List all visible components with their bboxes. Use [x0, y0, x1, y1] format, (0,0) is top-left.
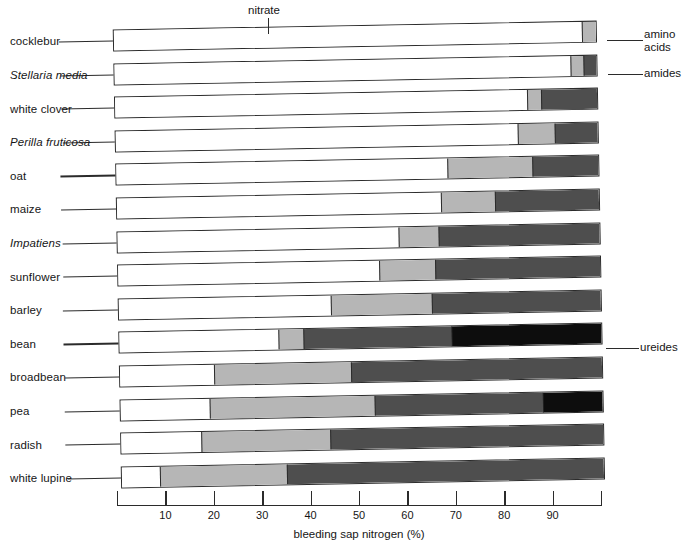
- stacked-bar-broadbean: [119, 357, 603, 388]
- callout-line-amides: [608, 74, 643, 75]
- callout-line-nitrate: [268, 18, 269, 34]
- segment-amino-acids: [278, 329, 303, 349]
- callout-line-ureides: [606, 348, 639, 349]
- axis-tick-label-40: 40: [296, 509, 326, 521]
- segment-amides: [541, 89, 597, 110]
- bar-row: [118, 323, 602, 354]
- axis-tick-label-90: 90: [538, 509, 568, 521]
- bar-row: [119, 357, 603, 388]
- bar-row: [113, 21, 597, 52]
- axis-tick-0: [117, 491, 118, 506]
- label-leader-line: [68, 477, 121, 479]
- callout-label-amino-acids: amino acids: [644, 28, 675, 54]
- stacked-bar-oat: [115, 155, 599, 186]
- axis-tick-70: [456, 491, 457, 506]
- segment-nitrate: [114, 22, 582, 51]
- row-label-perilla-fruticosa: Perilla fruticosa: [10, 136, 90, 148]
- segment-amino-acids: [570, 55, 583, 75]
- segment-amides: [435, 257, 601, 280]
- axis-tick-label-60: 60: [392, 509, 422, 521]
- figure-root: cockleburStellaria mediawhite cloverPeri…: [0, 0, 687, 559]
- axis-tick-20: [214, 491, 215, 506]
- segment-amino-acids: [517, 123, 554, 144]
- callout-label-ureides: ureides: [640, 341, 678, 354]
- row-label-pea: pea: [10, 405, 30, 417]
- row-label-sunflower: sunflower: [10, 271, 60, 283]
- segment-amino-acids: [379, 260, 435, 281]
- axis-tick-90: [553, 491, 554, 506]
- row-label-impatiens: Impatiens: [10, 237, 61, 249]
- row-label-oat: oat: [10, 170, 26, 182]
- segment-nitrate: [117, 227, 398, 252]
- segment-nitrate: [121, 398, 210, 420]
- bar-row: [116, 222, 600, 253]
- segment-amides: [303, 327, 451, 350]
- row-label-radish: radish: [10, 439, 42, 451]
- label-leader-line: [63, 276, 117, 278]
- segment-amino-acids: [398, 226, 438, 247]
- axis-tick-label-10: 10: [150, 509, 180, 521]
- stacked-bar-impatiens: [116, 222, 600, 253]
- segment-amides: [374, 392, 543, 415]
- stacked-bar-bean: [118, 323, 602, 354]
- stacked-bar-white-lupine: [121, 457, 605, 488]
- axis-tick-40: [311, 491, 312, 506]
- segment-nitrate: [117, 193, 441, 219]
- label-leader-line: [66, 444, 121, 446]
- segment-amides: [330, 425, 603, 450]
- segment-amino-acids: [447, 157, 533, 179]
- segment-ureides: [543, 391, 603, 412]
- segment-amides: [533, 156, 599, 177]
- axis-tick-10: [165, 491, 166, 506]
- segment-amino-acids: [581, 22, 596, 42]
- axis-tick-60: [407, 491, 408, 506]
- segment-nitrate: [121, 432, 202, 453]
- stacked-bar-sunflower: [117, 256, 601, 287]
- label-leader-line: [63, 309, 118, 311]
- axis-tick-100: [601, 491, 602, 506]
- row-label-broadbean: broadbean: [10, 371, 66, 383]
- axis-tick-80: [504, 491, 505, 506]
- segment-nitrate: [122, 466, 160, 487]
- segment-amides: [554, 122, 598, 143]
- label-leader-line: [60, 175, 115, 177]
- segment-nitrate: [115, 90, 527, 118]
- axis-tick-50: [359, 491, 360, 506]
- row-label-barley: barley: [10, 304, 42, 316]
- segment-amides: [583, 55, 596, 75]
- segment-nitrate: [116, 124, 518, 151]
- segment-nitrate: [118, 261, 379, 286]
- axis-tick-label-30: 30: [247, 509, 277, 521]
- stacked-bar-stellaria-media: [113, 54, 597, 85]
- segment-nitrate: [119, 295, 331, 319]
- segment-amides: [495, 190, 599, 212]
- segment-ureides: [451, 324, 602, 347]
- stacked-bar-white-clover: [114, 88, 598, 119]
- stacked-bar-barley: [118, 289, 602, 320]
- segment-amino-acids: [160, 464, 288, 486]
- bar-row: [118, 289, 602, 320]
- label-leader-line: [61, 208, 116, 210]
- segment-nitrate: [114, 56, 570, 84]
- segment-amides: [287, 458, 604, 484]
- segment-amino-acids: [213, 362, 351, 385]
- segment-amides: [438, 223, 600, 246]
- segment-amino-acids: [441, 192, 496, 213]
- bar-row: [114, 88, 598, 119]
- callout-label-amides: amides: [644, 67, 681, 80]
- bar-row: [121, 457, 605, 488]
- segment-nitrate: [116, 159, 447, 185]
- row-label-bean: bean: [10, 338, 36, 350]
- segment-nitrate: [119, 330, 278, 353]
- segment-amino-acids: [527, 90, 541, 110]
- bar-row: [120, 390, 604, 421]
- segment-amino-acids: [331, 293, 432, 315]
- bar-row: [115, 121, 599, 152]
- bar-row: [113, 54, 597, 85]
- stacked-bar-perilla-fruticosa: [115, 121, 599, 152]
- row-label-white-lupine: white lupine: [10, 472, 72, 484]
- label-leader-line: [63, 242, 117, 244]
- row-label-stellaria-media: Stellaria media: [10, 69, 88, 81]
- bars-layer: [0, 0, 682, 7]
- plot-area: [0, 0, 687, 559]
